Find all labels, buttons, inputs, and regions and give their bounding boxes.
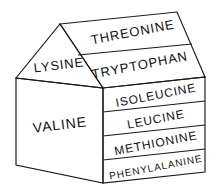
house-illustration: VALINE LYSINE THREONINE TRYPTOPHAN ISOLE… <box>0 0 222 195</box>
amino-acid-house-diagram: VALINE LYSINE THREONINE TRYPTOPHAN ISOLE… <box>0 0 222 195</box>
